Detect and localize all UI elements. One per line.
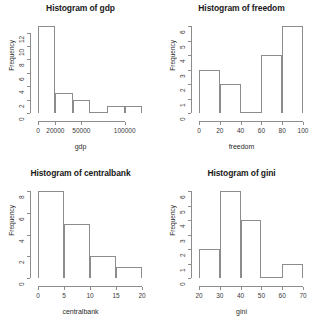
y-axis-tick [27,73,30,74]
x-axis-tick [125,122,126,125]
histogram-panel: Histogram of gdp024681012020000500001000… [0,0,161,164]
y-axis-tick-label: 12 [18,33,25,45]
x-axis-tick-label: 0 [36,292,40,299]
y-axis-tick [27,278,30,279]
y-axis-tick [188,84,191,85]
histogram-panel: Histogram of gini0123456203040506070gini… [161,165,322,329]
x-axis-tick-label: 0 [197,127,201,134]
x-axis-tick-label: 15 [112,292,119,299]
y-axis-tick-label: 2 [179,249,186,261]
x-axis-label: freedom [161,143,322,150]
y-axis-tick [27,33,30,34]
x-axis-tick [303,287,304,290]
histogram-bar [241,112,262,113]
plot-area [199,26,303,113]
plot-area [38,191,142,278]
x-axis-tick-label: 100000 [114,127,136,134]
y-axis-label: Frequency [169,40,176,71]
x-axis-tick-label: 50000 [72,127,90,134]
x-axis-tick [38,287,39,290]
histogram-bar [282,264,303,279]
y-axis-tick [188,41,191,42]
x-axis-tick [220,122,221,125]
x-axis-tick [282,287,283,290]
panel-title: Histogram of gini [161,168,322,178]
y-axis-tick-label: 2 [18,256,25,268]
x-axis-tick [64,287,65,290]
x-axis-tick-label: 60 [279,292,286,299]
y-axis-tick-label: 8 [18,59,25,71]
x-axis-tick-label: 20 [138,292,145,299]
x-axis-label: gdp [0,143,161,150]
y-axis-line [191,26,192,113]
y-axis-tick [27,191,30,192]
histogram-bar [261,277,282,278]
bar-series [38,26,142,113]
histogram-bar [116,267,142,278]
y-axis-tick-label: 4 [18,86,25,98]
histogram-bar [38,191,64,278]
y-axis-tick [188,264,191,265]
y-axis-tick [188,249,191,250]
y-axis-tick-label: 5 [179,206,186,218]
histogram-panel: Histogram of freedom0123456020406080100f… [161,0,322,164]
x-axis-tick [38,122,39,125]
x-axis-tick-label: 100 [298,127,309,134]
histogram-panel: Histogram of centralbank0246805101520cen… [0,165,161,329]
y-axis-tick-label: 6 [179,26,186,38]
x-axis-tick [261,287,262,290]
x-axis-tick [116,287,117,290]
x-axis-tick-label: 20 [195,292,202,299]
y-axis-tick [27,235,30,236]
y-axis-tick-label: 1 [179,264,186,276]
x-axis-tick [81,122,82,125]
bar-series [199,191,303,278]
x-axis-tick-label: 70 [299,292,306,299]
histogram-bar [73,100,90,113]
y-axis-line [30,191,31,278]
y-axis-tick [27,46,30,47]
histogram-bar [220,191,241,278]
x-axis-tick-label: 40 [237,292,244,299]
histogram-bar [38,26,55,113]
x-axis-label: gini [161,308,322,315]
histogram-bar [261,55,282,113]
histogram-bar [90,256,116,278]
y-axis-tick [188,220,191,221]
x-axis-line [199,121,303,122]
x-axis-tick [199,287,200,290]
y-axis-tick [27,256,30,257]
y-axis-tick-label: 3 [179,70,186,82]
x-axis-tick-label: 30 [216,292,223,299]
x-axis-tick-label: 80 [279,127,286,134]
panel-title: Histogram of gdp [0,3,161,13]
y-axis-tick-label: 6 [18,73,25,85]
y-axis-tick-label: 0 [18,113,25,125]
x-axis-tick [55,122,56,125]
x-axis-tick-label: 60 [258,127,265,134]
y-axis-tick-label: 4 [179,55,186,67]
y-axis-tick [188,206,191,207]
y-axis-tick [188,278,191,279]
y-axis-tick [27,213,30,214]
y-axis-tick [27,59,30,60]
histogram-bar [199,70,220,114]
x-axis-tick-label: 5 [62,292,66,299]
histogram-bar [199,249,220,278]
y-axis-label: Frequency [8,40,15,71]
y-axis-tick [188,191,191,192]
x-axis-tick [261,122,262,125]
panel-title: Histogram of freedom [161,3,322,13]
x-axis-tick-label: 20000 [46,127,64,134]
y-axis-tick [188,99,191,100]
histogram-bar [55,93,72,113]
x-axis-tick-label: 20 [216,127,223,134]
y-axis-tick [188,235,191,236]
y-axis-tick [188,70,191,71]
bar-series [199,26,303,113]
y-axis-tick-label: 0 [179,278,186,290]
plot-area [199,191,303,278]
histogram-bar [64,224,90,278]
y-axis-tick-label: 4 [179,220,186,232]
y-axis-tick-label: 6 [18,213,25,225]
